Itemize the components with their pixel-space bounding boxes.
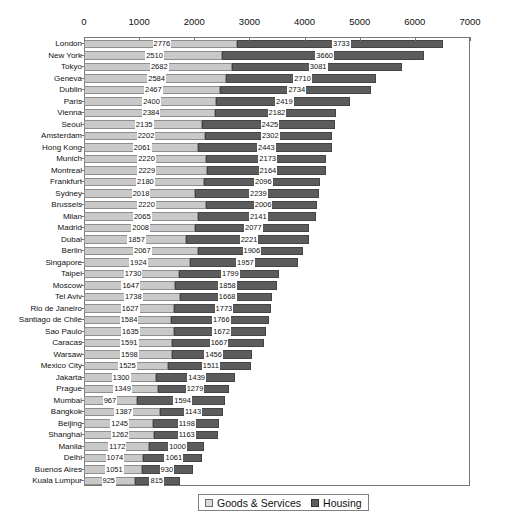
bar-value-goods: 2682	[150, 62, 169, 72]
bar-row: Dublin24672734	[0, 84, 508, 96]
bar-row: Mumbai9671594	[0, 395, 508, 407]
bar-value-goods: 2510	[145, 51, 164, 61]
bar-value-housing: 2173	[258, 154, 277, 164]
bar-value-housing: 1906	[243, 246, 262, 256]
category-label: Frankfurt	[0, 176, 82, 188]
bar-row: Paris24002419	[0, 96, 508, 108]
bar-value-housing: 1439	[187, 373, 206, 383]
bar-row: Prague13491279	[0, 383, 508, 395]
bar-value-housing: 2096	[254, 177, 273, 187]
bar-value-housing: 2239	[249, 189, 268, 199]
bar-value-housing: 1163	[178, 430, 196, 440]
bar-value-goods: 2018	[132, 189, 151, 199]
bar-row: Taipei17301799	[0, 268, 508, 280]
bar-value-goods: 2061	[133, 143, 152, 153]
bar-row: Seoul21352425	[0, 119, 508, 131]
bar-value-goods: 1730	[124, 269, 143, 279]
bar-row: Jakarta13001439	[0, 372, 508, 384]
bar-row: Hong Kong20612443	[0, 142, 508, 154]
category-label: Shanghai	[0, 429, 82, 441]
x-axis-tick-label: 2000	[184, 16, 205, 27]
category-label: Madrid	[0, 222, 82, 234]
category-label: Rio de Janeiro	[0, 303, 82, 315]
bar-row: Milan20652141	[0, 211, 508, 223]
category-label: Manila	[0, 441, 82, 453]
bar-value-housing: 3081	[309, 62, 328, 72]
category-label: Sydney	[0, 188, 82, 200]
bar-value-housing: 815	[149, 476, 164, 486]
bar-row: Montreal22292164	[0, 165, 508, 177]
x-axis-tick-label: 6000	[404, 16, 425, 27]
category-label: Amsterdam	[0, 130, 82, 142]
bar-value-housing: 2710	[293, 74, 312, 84]
bar-value-goods: 2135	[135, 120, 154, 130]
bar-row: Shanghai12621163	[0, 429, 508, 441]
x-axis-tick-label: 3000	[239, 16, 260, 27]
x-axis-tick	[249, 37, 250, 41]
category-label: Warsaw	[0, 349, 82, 361]
bar-value-goods: 1857	[127, 235, 146, 245]
category-label: Munich	[0, 153, 82, 165]
bar-row: Frankfurt21802096	[0, 176, 508, 188]
category-label: Taipei	[0, 268, 82, 280]
bar-row: Bangkok13871143	[0, 406, 508, 418]
bar-value-goods: 1349	[113, 384, 132, 394]
bar-value-housing: 3733	[332, 39, 351, 49]
bar-value-housing: 1279	[186, 384, 205, 394]
category-label: Caracas	[0, 337, 82, 349]
bar-value-housing: 2077	[244, 223, 263, 233]
bar-value-goods: 925	[102, 476, 117, 486]
category-label: Prague	[0, 383, 82, 395]
bar-value-housing: 1511	[202, 361, 220, 371]
bar-value-goods: 2776	[153, 39, 172, 49]
category-label: Mexico City	[0, 360, 82, 372]
legend-swatch-goods-icon	[205, 499, 213, 507]
bar-value-housing: 3660	[315, 51, 334, 61]
x-axis-tick	[139, 37, 140, 41]
category-label: Tokyo	[0, 61, 82, 73]
bar-value-goods: 2008	[131, 223, 150, 233]
category-label: Vienna	[0, 107, 82, 119]
bar-value-goods: 1635	[121, 327, 140, 337]
category-label: Berlin	[0, 245, 82, 257]
bar-value-housing: 1773	[215, 304, 234, 314]
category-label: Dubai	[0, 234, 82, 246]
x-axis-tick	[415, 37, 416, 41]
bar-row: Beijing12451198	[0, 418, 508, 430]
category-label: Bangkok	[0, 406, 82, 418]
bar-value-goods: 1051	[105, 465, 124, 475]
bar-row: Manila11721000	[0, 441, 508, 453]
bar-value-goods: 1262	[111, 430, 130, 440]
category-label: Mumbai	[0, 395, 82, 407]
bar-value-housing: 1061	[164, 453, 183, 463]
x-axis-tick	[360, 37, 361, 41]
bar-value-housing: 1667	[210, 338, 229, 348]
bar-value-goods: 2180	[136, 177, 155, 187]
bar-row: Tokyo26823081	[0, 61, 508, 73]
legend-label-housing: Housing	[323, 497, 362, 509]
bar-row: Singapore19241957	[0, 257, 508, 269]
bar-value-housing: 2443	[257, 143, 276, 153]
category-label: Paris	[0, 96, 82, 108]
category-label: Moscow	[0, 280, 82, 292]
bar-value-goods: 2384	[142, 108, 161, 118]
bar-value-goods: 2467	[144, 85, 163, 95]
category-label: Sao Paulo	[0, 326, 82, 338]
category-label: Seoul	[0, 119, 82, 131]
bar-row: Sydney20182239	[0, 188, 508, 200]
bar-value-housing: 2182	[268, 108, 287, 118]
legend-item-goods: Goods & Services	[205, 497, 301, 509]
bar-value-housing: 1000	[168, 442, 187, 452]
bar-value-housing: 1668	[218, 292, 237, 302]
bar-value-goods: 2229	[137, 166, 156, 176]
category-label: Kuala Lumpur	[0, 475, 82, 487]
bar-row: Caracas15911667	[0, 337, 508, 349]
bar-row: Vienna23842182	[0, 107, 508, 119]
bar-value-goods: 1525	[118, 361, 137, 371]
bar-value-goods: 1387	[114, 407, 133, 417]
x-axis-tick	[194, 37, 195, 41]
category-label: Brussels	[0, 199, 82, 211]
chart-legend: Goods & Services Housing	[198, 494, 369, 511]
bar-value-housing: 2302	[261, 131, 280, 141]
category-label: Geneva	[0, 73, 82, 85]
